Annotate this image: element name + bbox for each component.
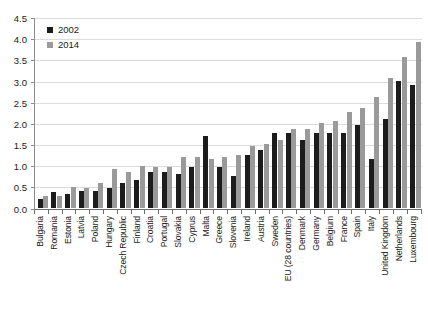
y-tick-label: 1.5 — [14, 140, 27, 151]
x-tick-label: Ireland — [243, 216, 252, 242]
x-tick-mark — [34, 210, 35, 214]
bar-group — [340, 18, 354, 208]
bar-2014 — [305, 129, 310, 207]
bar-2014 — [333, 121, 338, 208]
bar-2002 — [272, 133, 277, 207]
bar-group — [244, 18, 258, 208]
y-tick-mark — [31, 124, 35, 125]
bar-group — [354, 18, 368, 208]
bar-2002 — [120, 183, 125, 207]
x-tick-label: Belgium — [326, 216, 335, 246]
x-tick-mark — [103, 210, 104, 214]
legend-swatch-icon-2002 — [47, 27, 53, 33]
bar-2002 — [107, 188, 112, 208]
bar-2002 — [383, 119, 388, 208]
y-tick-label: 4.0 — [14, 34, 27, 45]
x-tick-label: France — [340, 216, 349, 242]
bar-2014 — [402, 57, 407, 207]
bar-2002 — [162, 172, 167, 208]
y-tick-mark — [31, 103, 35, 104]
y-tick-mark — [31, 166, 35, 167]
bar-chart: 0.00.51.01.52.02.53.03.54.04.5 BulgariaR… — [0, 0, 428, 311]
bar-2014 — [153, 167, 158, 207]
bar-2014 — [416, 42, 421, 207]
x-tick-label: Netherlands — [395, 216, 404, 261]
bar-2014 — [57, 196, 62, 208]
bar-2014 — [43, 196, 48, 208]
x-tick-mark — [117, 210, 118, 214]
bar-2002 — [341, 133, 346, 207]
bar-2002 — [355, 125, 360, 208]
x-tick-mark — [269, 210, 270, 214]
x-tick-label: Cyprus — [188, 216, 197, 243]
legend-swatch-icon-2014 — [47, 42, 53, 48]
x-tick-label: United Kingdom — [381, 216, 390, 276]
x-tick-mark — [213, 210, 214, 214]
x-tick-mark — [172, 210, 173, 214]
bar-group — [326, 18, 340, 208]
bar-2014 — [71, 187, 76, 207]
bar-2014 — [126, 172, 131, 208]
bar-2014 — [388, 78, 393, 207]
x-tick-label: Portugal — [160, 216, 169, 247]
x-tick-mark — [379, 210, 380, 214]
x-tick-label: EU (28 countries) — [284, 216, 293, 281]
x-tick-mark — [200, 210, 201, 214]
bar-2014 — [140, 166, 145, 207]
bar-2014 — [374, 97, 379, 207]
bar-2014 — [264, 144, 269, 208]
bar-2014 — [236, 155, 241, 208]
x-tick-mark — [131, 210, 132, 214]
bar-2014 — [291, 129, 296, 207]
bar-2002 — [93, 191, 98, 207]
x-tick-mark — [227, 210, 228, 214]
bar-2002 — [327, 133, 332, 207]
bar-2002 — [286, 133, 291, 207]
bar-2014 — [84, 188, 89, 207]
bar-2002 — [231, 176, 236, 208]
y-tick-mark — [31, 82, 35, 83]
bar-2014 — [195, 157, 200, 208]
bar-2014 — [347, 112, 352, 207]
y-tick-label: 3.0 — [14, 76, 27, 87]
x-tick-mark — [241, 210, 242, 214]
plot-area — [34, 18, 422, 210]
x-tick-label: Sweden — [271, 216, 280, 246]
bar-group — [175, 18, 189, 208]
bar-group — [202, 18, 216, 208]
bar-2014 — [181, 157, 186, 208]
x-tick-mark — [48, 210, 49, 214]
x-tick-mark — [365, 210, 366, 214]
x-axis-labels: BulgariaRomaniaEstoniaLatviaPolandHungar… — [34, 216, 422, 308]
x-tick-mark — [421, 210, 422, 214]
y-tick-label: 0.0 — [14, 203, 27, 214]
x-tick-mark — [310, 210, 311, 214]
bar-2002 — [148, 172, 153, 208]
x-tick-label: Greece — [215, 216, 224, 244]
y-tick-label: 4.5 — [14, 13, 27, 24]
bars-layer — [37, 18, 423, 208]
x-tick-mark — [324, 210, 325, 214]
bar-2014 — [360, 108, 365, 207]
x-tick-label: Slovakia — [174, 216, 183, 248]
x-tick-label: Luxembourg — [409, 216, 418, 263]
x-tick-label: Germany — [312, 216, 321, 251]
bar-2002 — [410, 85, 415, 208]
x-tick-mark — [296, 210, 297, 214]
bar-group — [382, 18, 396, 208]
bar-2014 — [167, 167, 172, 207]
x-tick-label: Denmark — [298, 216, 307, 250]
bar-2002 — [189, 167, 194, 207]
x-tick-label: Estonia — [64, 216, 73, 244]
y-tick-label: 3.5 — [14, 55, 27, 66]
legend-label-2002: 2002 — [58, 24, 79, 35]
legend-item-2014: 2014 — [47, 38, 79, 51]
bar-2014 — [98, 183, 103, 207]
x-tick-mark — [407, 210, 408, 214]
bar-group — [106, 18, 120, 208]
x-tick-label: Finland — [133, 216, 142, 244]
bar-2002 — [396, 81, 401, 208]
bar-2002 — [176, 174, 181, 208]
y-tick-label: 1.0 — [14, 161, 27, 172]
x-tick-mark — [338, 210, 339, 214]
